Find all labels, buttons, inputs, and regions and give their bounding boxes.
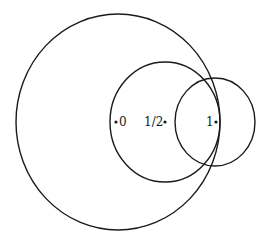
point-0-label: 0 <box>119 115 127 129</box>
large-circle <box>16 14 220 230</box>
circles-diagram: 0 1/2 1 <box>0 0 272 243</box>
point-1-dot <box>214 120 217 123</box>
point-1-label: 1 <box>206 115 214 129</box>
point-half-dot <box>163 120 166 123</box>
point-0-dot <box>114 120 117 123</box>
point-half-label: 1/2 <box>144 115 163 129</box>
